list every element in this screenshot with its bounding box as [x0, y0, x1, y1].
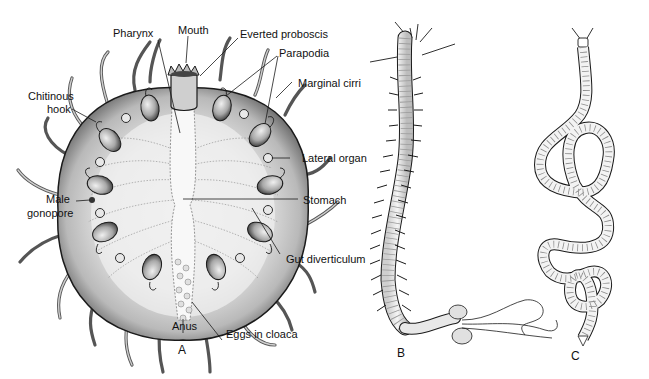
- label-anus: Anus: [172, 320, 197, 332]
- label-male-gonopore-line1: Male: [46, 193, 70, 205]
- label-chitinous-hook-line2: hook: [47, 103, 71, 115]
- label-parapodia: Parapodia: [279, 47, 329, 59]
- panel-c-coiled-worm: [540, 28, 609, 346]
- label-lateral-organ: Lateral organ: [302, 152, 367, 164]
- label-pharynx: Pharynx: [113, 27, 153, 39]
- label-gut-diverticulum: Gut diverticulum: [286, 253, 365, 265]
- label-male-gonopore-line2: gonopore: [27, 207, 74, 219]
- panel-label-c: C: [571, 349, 580, 363]
- label-everted-proboscis: Everted proboscis: [240, 28, 328, 40]
- label-mouth: Mouth: [178, 24, 209, 36]
- panel-label-a: A: [178, 343, 186, 357]
- label-eggs-in-cloaca: Eggs in cloaca: [226, 328, 298, 340]
- label-chitinous-hook-line1: Chitinous: [28, 90, 74, 102]
- panel-label-b: B: [397, 346, 405, 360]
- panel-b-elongate-worm: [370, 22, 557, 344]
- label-stomach: Stomach: [303, 194, 346, 206]
- label-marginal-cirri: Marginal cirri: [298, 77, 361, 89]
- anatomy-figure: Pharynx Mouth Everted proboscis Parapodi…: [0, 0, 649, 379]
